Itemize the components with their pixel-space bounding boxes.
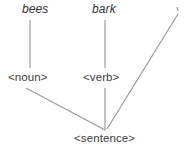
edge-noun-to-sentence xyxy=(26,88,105,130)
nonterminal-node-verb: <verb> xyxy=(83,71,119,84)
terminal-node-bark: bark xyxy=(92,3,116,16)
terminal-node-bees: bees xyxy=(22,3,48,16)
root-node-sentence: <sentence> xyxy=(74,132,135,145)
top-right-tick-mark-icon xyxy=(177,7,178,11)
parse-tree-diagram: bees bark <noun> <verb> <sentence> xyxy=(0,0,193,154)
nonterminal-node-noun: <noun> xyxy=(8,71,48,84)
